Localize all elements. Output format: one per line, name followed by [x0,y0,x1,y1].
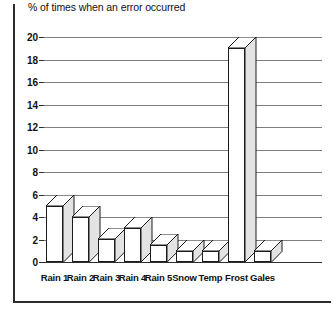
gridline-10 [44,150,322,151]
y-tick-label-6: 6 [32,189,38,200]
bar-rain-4 [124,217,152,262]
bar-temp [202,240,230,263]
bar-top-face [150,234,178,245]
plot-area [44,37,322,262]
y-tick-label-16: 16 [27,77,38,88]
bar-gales [254,240,282,263]
bar-rain-5 [150,234,178,262]
y-tick-label-18: 18 [27,54,38,65]
bar-front-face [124,228,141,262]
bar-top-face [72,206,100,217]
y-tick-label-12: 12 [27,122,38,133]
y-tick-label-8: 8 [32,167,38,178]
bar-top-face [176,240,204,251]
gridline-0 [44,262,322,263]
y-tick-label-4: 4 [32,212,38,223]
bar-side-face [245,48,256,262]
gridline-16 [44,82,322,83]
bar-front-face [46,206,63,263]
bar-rain-2 [72,206,100,262]
y-tick-label-14: 14 [27,99,38,110]
y-tick-label-10: 10 [27,144,38,155]
bar-front-face [228,48,245,262]
gridline-8 [44,172,322,173]
y-tick-label-2: 2 [32,234,38,245]
x-tick-label-snow: Snow [172,272,197,283]
bar-front-face [254,251,271,263]
bar-front-face [72,217,89,262]
x-tick-label-rain-3: Rain 3 [93,272,120,283]
bar-top-face [46,195,74,206]
chart-title: % of times when an error occurred [28,1,185,13]
x-tick-label-rain-2: Rain 2 [67,272,94,283]
gridline-20 [44,37,322,38]
bar-rain-3 [98,228,126,262]
bar-front-face [202,251,219,263]
bar-front-face [150,245,167,262]
bar-top-face [228,37,256,48]
bar-front-face [176,251,193,263]
y-tick-label-20: 20 [27,32,38,43]
bar-snow [176,240,204,263]
gridline-6 [44,195,322,196]
chart-figure: % of times when an error occurred 201816… [0,0,334,311]
x-tick-label-temp: Temp [199,272,223,283]
bar-top-face [254,240,282,251]
x-tick-label-rain-1: Rain 1 [41,272,68,283]
frame-bottom-border [13,301,331,303]
y-axis-tick-labels: 20181614121086420 [20,37,38,262]
bar-top-face [98,228,126,239]
bar-rain-1 [46,195,74,263]
bar-frost [228,37,256,262]
bar-side-face [271,251,282,263]
x-tick-label-frost: Frost [225,272,248,283]
frame-left-border [13,4,15,303]
x-tick-label-gales: Gales [250,272,275,283]
gridline-14 [44,105,322,106]
bar-top-face [124,217,152,228]
gridline-18 [44,60,322,61]
x-tick-label-rain-4: Rain 4 [119,272,146,283]
bar-front-face [98,239,115,262]
x-tick-label-rain-5: Rain 5 [145,272,172,283]
gridline-12 [44,127,322,128]
bar-top-face [202,240,230,251]
y-tick-label-0: 0 [32,257,38,268]
